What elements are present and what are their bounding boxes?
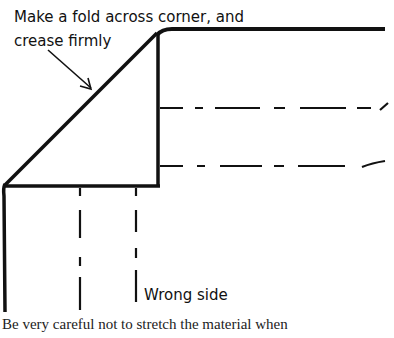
arrow-pointer-icon [48, 50, 91, 89]
caption-text: Be very careful not to stretch the mater… [2, 316, 288, 333]
annotation-line-1: Make a fold across corner, and [14, 8, 244, 26]
diagonal-fold-line [4, 33, 157, 186]
wrong-side-label: Wrong side [144, 286, 228, 304]
top-edge-line [157, 29, 385, 35]
fold-illustration: Make a fold across corner, and crease fi… [0, 0, 394, 338]
horizontal-seam-lines [160, 103, 388, 167]
left-edge-line [4, 184, 5, 312]
fold-diagram: Make a fold across corner, and crease fi… [0, 0, 394, 338]
vertical-seam-lines [80, 188, 136, 310]
annotation-line-2: crease firmly [14, 32, 111, 50]
